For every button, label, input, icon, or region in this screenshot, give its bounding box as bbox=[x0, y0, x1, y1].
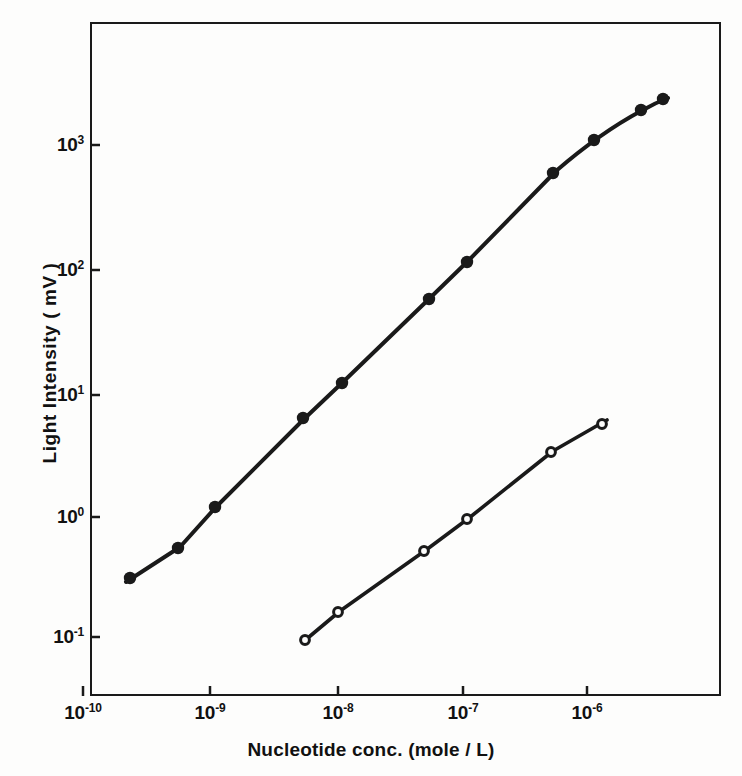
x-tick-label-0: 10‐10 bbox=[64, 702, 101, 724]
plot-frame bbox=[90, 22, 721, 696]
x-tick-label-2: 10‐8 bbox=[323, 702, 354, 724]
y-axis-title: Light Intensity ( mV ) bbox=[39, 193, 61, 533]
y-tick-label-0: 103 bbox=[20, 134, 84, 156]
x-tick-label-1: 10‐9 bbox=[195, 702, 226, 724]
figure-canvas: 10310210110010‐1 10‐1010‐910‐810‐710‐6 N… bbox=[0, 0, 742, 776]
x-tick-label-3: 10‐7 bbox=[448, 702, 479, 724]
x-axis-title: Nucleotide conc. (mole / L) bbox=[0, 739, 742, 761]
y-tick-label-4: 10‐1 bbox=[20, 626, 84, 648]
x-tick-label-4: 10‐6 bbox=[572, 702, 603, 724]
